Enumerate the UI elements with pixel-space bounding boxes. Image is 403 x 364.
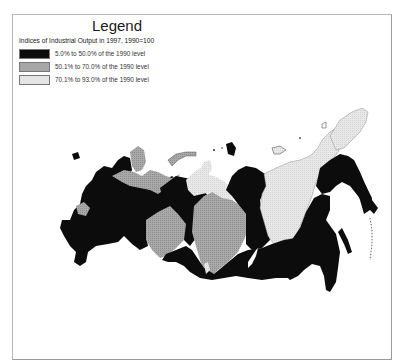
region-sakhalin	[338, 228, 352, 254]
island	[299, 137, 301, 139]
region-novaya-zemlya	[168, 152, 196, 166]
region-kaliningrad	[72, 152, 80, 160]
island	[213, 149, 215, 151]
island	[221, 147, 223, 149]
russia-map	[0, 0, 403, 364]
region-new-siberian-islands	[272, 146, 286, 154]
region-chukotka	[330, 108, 368, 150]
region-karelia-murmansk	[130, 146, 146, 172]
region-kamchatka	[352, 176, 372, 214]
region-wrangel	[322, 122, 326, 128]
region-severnaya-zemlya	[226, 142, 236, 156]
region-kurils	[370, 218, 372, 260]
